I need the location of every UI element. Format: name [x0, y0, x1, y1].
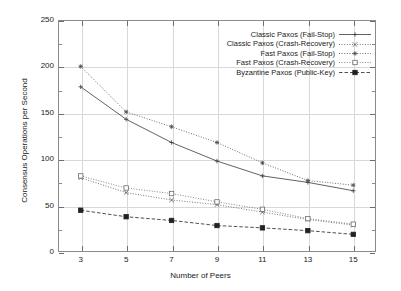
legend-label: Fast Paxos (Fail-Stop)	[260, 49, 338, 58]
data-point-cross	[124, 190, 128, 194]
data-point-star	[260, 161, 264, 165]
data-point-filled-square	[306, 228, 310, 232]
data-point-open-square	[215, 200, 219, 204]
data-point-plus	[169, 140, 173, 144]
series-3	[79, 174, 356, 227]
x-axis-tick-label: 9	[202, 256, 232, 264]
data-point-cross	[169, 198, 173, 202]
x-axis-title: Number of Peers	[0, 271, 401, 280]
data-point-open-square	[124, 186, 128, 190]
x-axis-tick-label: 3	[66, 256, 96, 264]
data-point-star	[79, 64, 83, 68]
data-point-filled-square	[79, 208, 83, 212]
legend-label: Fast Paxos (Crash-Recovery)	[236, 58, 338, 67]
y-axis-tick	[370, 253, 375, 254]
data-point-open-square	[260, 207, 264, 211]
data-point-open-square	[306, 216, 310, 220]
series-line	[81, 87, 354, 191]
data-point-open-square	[79, 174, 83, 178]
data-point-plus	[260, 174, 264, 178]
data-point-star	[124, 110, 128, 114]
data-point-plus	[353, 32, 357, 36]
data-point-open-square	[169, 191, 173, 195]
legend-label: Classic Paxos (Crash-Recovery)	[227, 39, 338, 48]
legend-sample-filled-square-icon	[338, 68, 372, 77]
data-point-open-square	[351, 222, 355, 226]
data-point-plus	[215, 159, 219, 163]
x-axis-tick-label: 13	[293, 256, 323, 264]
data-point-filled-square	[124, 215, 128, 219]
y-axis-tick-label: 250	[14, 16, 54, 24]
data-point-open-square	[353, 61, 357, 65]
data-point-star	[351, 183, 355, 187]
x-axis-tick-label: 5	[111, 256, 141, 264]
legend-entry: Classic Paxos (Crash-Recovery)	[196, 39, 372, 48]
legend-entry: Fast Paxos (Fail-Stop)	[196, 49, 372, 58]
data-point-filled-square	[351, 232, 355, 236]
y-axis-tick	[59, 253, 64, 254]
legend-label: Byzantine Paxos (Public-Key)	[236, 68, 338, 77]
legend-entry: Byzantine Paxos (Public-Key)	[196, 68, 372, 77]
y-axis-title: Consensus Operations per Second	[20, 25, 29, 257]
x-axis-tick-label: 11	[247, 256, 277, 264]
data-point-cross	[353, 42, 357, 46]
data-point-plus	[351, 189, 355, 193]
legend-entry: Fast Paxos (Crash-Recovery)	[196, 58, 372, 67]
legend-sample-cross-icon	[338, 40, 372, 49]
data-point-star	[306, 178, 310, 182]
series-2	[79, 64, 356, 187]
data-point-star	[353, 51, 357, 55]
data-point-filled-square	[169, 218, 173, 222]
series-line	[81, 210, 354, 234]
legend-entry: Classic Paxos (Fail-Stop)	[196, 30, 372, 39]
series-4	[79, 208, 356, 237]
x-axis-tick-label: 15	[338, 256, 368, 264]
data-point-star	[215, 140, 219, 144]
chart-legend: Classic Paxos (Fail-Stop)Classic Paxos (…	[196, 30, 372, 77]
series-0	[79, 85, 356, 193]
legend-label: Classic Paxos (Fail-Stop)	[251, 30, 338, 39]
data-point-filled-square	[260, 226, 264, 230]
data-point-filled-square	[353, 70, 357, 74]
chart-figure: 250200150100500 3579111315 Number of Pee…	[0, 0, 401, 291]
data-point-star	[169, 125, 173, 129]
legend-sample-plus-icon	[338, 30, 372, 39]
legend-sample-star-icon	[338, 49, 372, 58]
series-line	[81, 66, 354, 185]
legend-sample-open-square-icon	[338, 58, 372, 67]
x-axis-tick-label: 7	[157, 256, 187, 264]
data-point-filled-square	[215, 223, 219, 227]
